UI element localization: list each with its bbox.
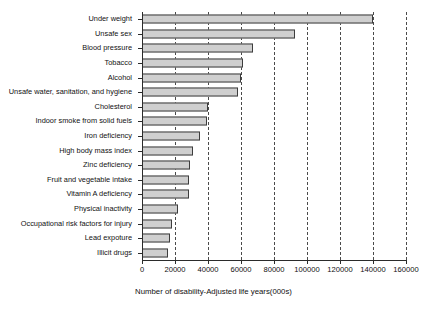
bar <box>142 132 200 141</box>
bar-chart: Under weightUnsafe sexBlood pressureToba… <box>0 0 427 311</box>
y-axis-tick-label: Occupational risk factors for injury <box>21 220 132 227</box>
x-axis-tick <box>406 260 407 264</box>
x-axis-tick <box>175 260 176 264</box>
gridline-100000 <box>307 12 308 260</box>
x-axis-tick-label: 140000 <box>360 266 385 274</box>
y-axis-category-labels: Under weightUnsafe sexBlood pressureToba… <box>0 12 138 260</box>
bar <box>142 88 238 97</box>
bar <box>142 146 193 155</box>
x-axis-tick-label: 120000 <box>327 266 352 274</box>
x-axis-tick-label: 100000 <box>294 266 319 274</box>
x-axis-tick <box>307 260 308 264</box>
y-axis-tick-label: Tobacco <box>104 59 132 66</box>
x-axis-tick-label: 40000 <box>197 266 218 274</box>
y-axis-tick-label: Unsafe water, sanitation, and hygiene <box>9 89 132 96</box>
x-axis-tick <box>373 260 374 264</box>
bar <box>142 234 170 243</box>
y-axis-tick-label: Illicit drugs <box>97 249 132 256</box>
y-axis-tick-label: Lead expoture <box>85 234 132 241</box>
bar <box>142 29 295 38</box>
bar <box>142 219 172 228</box>
x-axis-title: Number of disability-Adjusted life years… <box>0 288 427 296</box>
x-axis-tick-label: 0 <box>140 266 144 274</box>
y-axis-tick-label: Unsafe sex <box>95 30 132 37</box>
gridline-160000 <box>406 12 407 260</box>
y-axis-tick-label: Vitamin A deficiency <box>66 191 132 198</box>
y-axis-tick-label: Physical inactivity <box>74 205 132 212</box>
x-axis-tick <box>142 260 143 264</box>
bar <box>142 204 178 213</box>
y-axis-tick-label: Under weight <box>88 16 132 23</box>
gridline-80000 <box>274 12 275 260</box>
gridline-140000 <box>373 12 374 260</box>
y-axis-tick-label: Zinc deficiency <box>83 161 132 168</box>
bar <box>142 248 168 257</box>
y-axis-line <box>142 12 143 260</box>
y-axis-tick-label: Cholesterol <box>95 103 132 110</box>
x-axis-tick-label: 160000 <box>393 266 418 274</box>
plot-area <box>142 12 406 260</box>
x-axis-tick <box>241 260 242 264</box>
y-axis-tick-label: Alcohol <box>108 74 132 81</box>
x-axis-tick-label: 80000 <box>263 266 284 274</box>
bar <box>142 117 207 126</box>
y-axis-tick-label: Fruit and vegetable intake <box>47 176 132 183</box>
y-axis-tick-label: High body mass index <box>59 147 132 154</box>
x-axis-tick <box>340 260 341 264</box>
y-axis-tick-label: Indoor smoke from solid fuels <box>35 118 132 125</box>
y-axis-tick-label: Blood pressure <box>82 45 132 52</box>
x-axis-tick <box>208 260 209 264</box>
bar <box>142 15 373 24</box>
bar <box>142 59 243 68</box>
gridline-120000 <box>340 12 341 260</box>
x-axis-tick-label: 20000 <box>164 266 185 274</box>
bar <box>142 175 189 184</box>
x-axis-tick-label: 60000 <box>230 266 251 274</box>
bar <box>142 44 253 53</box>
bar <box>142 161 190 170</box>
bar <box>142 102 208 111</box>
y-axis-tick-label: Iron deficiency <box>84 132 132 139</box>
x-axis-tick <box>274 260 275 264</box>
bar <box>142 190 189 199</box>
bar <box>142 73 241 82</box>
